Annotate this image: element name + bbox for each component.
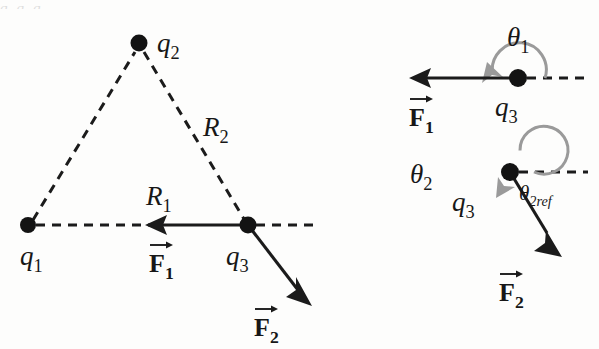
vector-arrowtip-over-F2-bottom xyxy=(516,271,523,278)
charge-dot-q1 xyxy=(20,217,36,233)
theta2-label-q3: q3 xyxy=(452,187,475,222)
clipped-top-text: q₁ q₂ q xyxy=(0,0,599,9)
svg-text:F2: F2 xyxy=(499,278,524,312)
theta2-force-F2-arrowhead xyxy=(534,230,562,257)
svg-text:F2: F2 xyxy=(254,313,279,347)
label-R2: R2 xyxy=(202,112,229,147)
theta2-charge-dot-q3 xyxy=(501,163,519,181)
right-bottom-panel-group: θ2 q3 θ2ref F2 xyxy=(410,126,588,312)
vector-arrowtip-over-F1-top xyxy=(426,96,433,103)
triangle-side-q1-q2 xyxy=(33,52,135,220)
label-q3: q3 xyxy=(226,241,249,276)
theta1-label-q3: q3 xyxy=(495,92,518,127)
theta2-label-F2-group: F2 xyxy=(499,271,524,313)
label-theta1: θ1 xyxy=(507,22,529,57)
vector-arrowtip-over-F2 xyxy=(271,306,278,313)
svg-text:F1: F1 xyxy=(409,103,434,137)
label-R1: R1 xyxy=(145,181,172,216)
svg-text:F1: F1 xyxy=(149,249,174,283)
force-F2-shaft xyxy=(248,225,298,290)
theta1-charge-dot-q3 xyxy=(509,69,527,87)
label-theta2: θ2 xyxy=(410,159,432,194)
charge-dot-q2 xyxy=(131,35,148,52)
force-diagram-svg: q1 q2 q3 R1 R2 F1 xyxy=(0,0,599,349)
label-q2: q2 xyxy=(157,28,180,63)
label-F2-group: F2 xyxy=(254,306,279,348)
figure-root: q₁ q₂ q q1 xyxy=(0,0,599,349)
theta1-label-F1-group: F1 xyxy=(409,96,434,138)
label-q1: q1 xyxy=(20,241,43,276)
right-top-panel-group: θ1 q3 F1 xyxy=(409,22,588,137)
vector-arrowtip-over-F1 xyxy=(166,242,173,249)
charge-dot-q3 xyxy=(240,217,257,234)
left-panel-group: q1 q2 q3 R1 R2 F1 xyxy=(20,28,320,347)
theta2-arc xyxy=(520,126,568,174)
label-F1-group: F1 xyxy=(149,242,174,284)
label-theta2ref: θ2ref xyxy=(519,181,554,209)
